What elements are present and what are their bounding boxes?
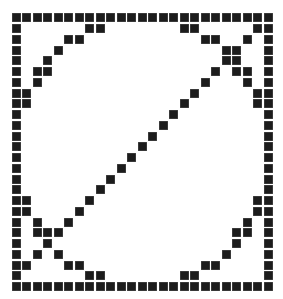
grid-cell — [190, 271, 199, 280]
grid-cell — [96, 185, 105, 194]
grid-cell — [12, 110, 21, 119]
grid-cell — [190, 89, 199, 98]
grid-cell — [33, 13, 42, 22]
grid-cell — [54, 46, 63, 55]
grid-cell — [12, 228, 21, 237]
grid-cell — [222, 250, 231, 259]
grid-cell — [12, 218, 21, 227]
grid-cell — [12, 67, 21, 76]
grid-cell — [232, 67, 241, 76]
grid-cell — [22, 99, 31, 108]
grid-cell — [22, 13, 31, 22]
grid-cell — [85, 196, 94, 205]
grid-cell — [64, 282, 73, 291]
grid-cell — [264, 78, 273, 87]
grid-cell — [12, 271, 21, 280]
grid-cell — [253, 89, 262, 98]
grid-cell — [180, 282, 189, 291]
grid-cell — [12, 207, 21, 216]
grid-cell — [253, 196, 262, 205]
grid-cell — [96, 13, 105, 22]
grid-cell — [12, 46, 21, 55]
grid-cell — [159, 121, 168, 130]
grid-cell — [22, 207, 31, 216]
grid-cell — [201, 13, 210, 22]
grid-cell — [96, 271, 105, 280]
grid-cell — [243, 282, 252, 291]
grid-cell — [253, 13, 262, 22]
grid-cell — [33, 67, 42, 76]
grid-cell — [127, 153, 136, 162]
grid-cell — [264, 142, 273, 151]
grid-cell — [96, 24, 105, 33]
grid-cell — [222, 282, 231, 291]
grid-cell — [264, 228, 273, 237]
grid-cell — [85, 271, 94, 280]
grid-cell — [12, 89, 21, 98]
grid-cell — [148, 13, 157, 22]
grid-cell — [264, 239, 273, 248]
grid-cell — [253, 24, 262, 33]
grid-cell — [12, 78, 21, 87]
grid-cell — [96, 282, 105, 291]
grid-cell — [264, 207, 273, 216]
grid-cell — [106, 175, 115, 184]
grid-cell — [264, 89, 273, 98]
grid-cell — [159, 13, 168, 22]
grid-cell — [43, 67, 52, 76]
grid-cell — [222, 13, 231, 22]
grid-cell — [264, 282, 273, 291]
grid-cell — [264, 46, 273, 55]
pixel-grid: Pixel grid pattern — [0, 0, 283, 299]
grid-cell — [264, 271, 273, 280]
grid-cell — [232, 228, 241, 237]
grid-cell — [159, 282, 168, 291]
grid-cell — [264, 218, 273, 227]
grid-cell — [243, 13, 252, 22]
grid-cell — [264, 196, 273, 205]
grid-cell — [43, 56, 52, 65]
grid-cell — [169, 110, 178, 119]
grid-cell — [22, 196, 31, 205]
grid-cell — [222, 56, 231, 65]
grid-cell — [232, 56, 241, 65]
grid-cell — [232, 282, 241, 291]
grid-cell — [232, 13, 241, 22]
grid-cell — [253, 207, 262, 216]
grid-cell — [264, 261, 273, 270]
grid-cell — [201, 35, 210, 44]
grid-cell — [33, 282, 42, 291]
grid-cell — [64, 35, 73, 44]
grid-cell — [190, 13, 199, 22]
grid-cell — [264, 250, 273, 259]
grid-cell — [264, 153, 273, 162]
grid-cell — [211, 13, 220, 22]
grid-cell — [75, 13, 84, 22]
grid-cell — [264, 121, 273, 130]
grid-cell — [180, 13, 189, 22]
grid-cell — [12, 35, 21, 44]
grid-cell — [243, 35, 252, 44]
grid-cell — [264, 99, 273, 108]
grid-cell — [169, 282, 178, 291]
grid-cell — [264, 110, 273, 119]
grid-cell — [264, 67, 273, 76]
grid-cell — [12, 132, 21, 141]
grid-cell — [12, 121, 21, 130]
grid-cell — [253, 99, 262, 108]
grid-cell — [264, 56, 273, 65]
grid-cell — [264, 13, 273, 22]
grid-cell — [222, 46, 231, 55]
grid-cell — [12, 185, 21, 194]
grid-cell — [264, 35, 273, 44]
grid-cell — [12, 282, 21, 291]
grid-cell — [138, 13, 147, 22]
grid-cell — [180, 271, 189, 280]
grid-cell — [54, 282, 63, 291]
grid-cell — [43, 228, 52, 237]
grid-cell — [243, 67, 252, 76]
grid-cell — [106, 282, 115, 291]
grid-cell — [253, 282, 262, 291]
grid-cell — [180, 24, 189, 33]
grid-cell — [75, 261, 84, 270]
